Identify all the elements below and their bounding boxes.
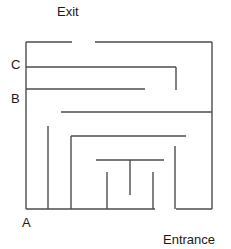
walls-group	[26, 42, 212, 209]
exit-label: Exit	[57, 5, 79, 18]
waypoint-label-a: A	[22, 216, 31, 229]
entrance-label: Entrance	[163, 233, 215, 246]
maze-walls-canvas	[0, 0, 231, 249]
waypoint-label-b: B	[11, 92, 20, 105]
waypoint-label-c: C	[11, 58, 20, 71]
maze-figure: Exit C B A Entrance	[0, 0, 231, 249]
